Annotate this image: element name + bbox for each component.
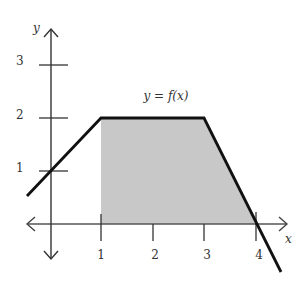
function-label: y = f(x): [142, 89, 188, 103]
x-tick-label-3: 3: [203, 248, 211, 262]
x-axis-label: x: [285, 232, 292, 246]
x-tick-label-1: 1: [97, 248, 105, 262]
y-tick-label-3: 3: [16, 54, 24, 68]
function-graph: y x 3 2 1 1 2 3 4 y = f(x): [0, 0, 304, 284]
x-tick-label-4: 4: [255, 248, 263, 262]
x-tick-label-2: 2: [151, 248, 159, 262]
shaded-area: [101, 118, 256, 224]
y-axis-label: y: [32, 21, 40, 35]
y-tick-label-2: 2: [16, 108, 24, 122]
y-tick-label-1: 1: [16, 161, 24, 175]
